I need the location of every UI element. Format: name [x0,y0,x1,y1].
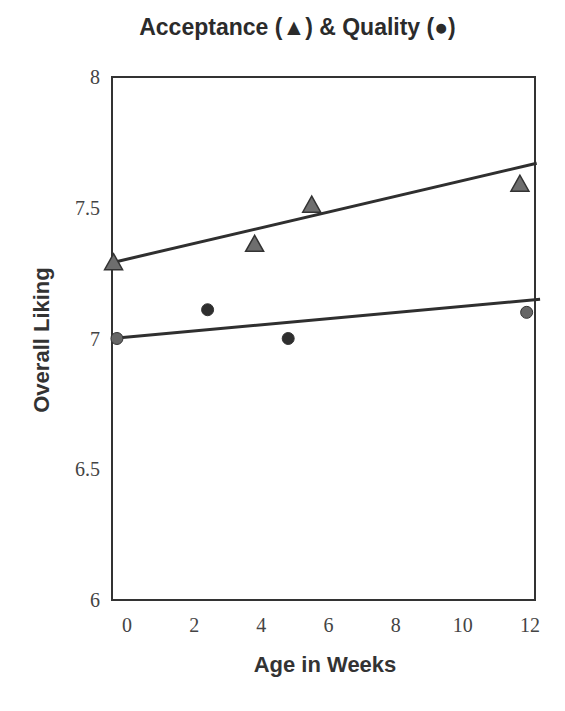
y-tick-label: 6.5 [75,458,100,480]
x-tick-label: 10 [453,614,473,636]
plot-area: 66.577.58024681012 [0,0,565,711]
y-tick-label: 6 [90,589,100,611]
x-tick-label: 2 [189,614,199,636]
y-tick-label: 8 [90,66,100,88]
x-tick-label: 0 [122,614,132,636]
x-tick-label: 4 [256,614,266,636]
triangle-marker-icon [246,235,264,251]
plot-frame [112,77,535,600]
circle-marker-icon [521,306,533,318]
x-tick-label: 12 [520,614,540,636]
quality-trendline [112,299,540,338]
triangle-marker-icon [511,175,529,191]
y-tick-label: 7 [90,328,100,350]
circle-marker-icon [282,333,294,345]
y-tick-label: 7.5 [75,197,100,219]
triangle-marker-icon [303,196,321,212]
circle-marker-icon [202,304,214,316]
x-tick-label: 8 [391,614,401,636]
x-tick-label: 6 [324,614,334,636]
circle-marker-icon [111,333,123,345]
acceptance-trendline [112,163,537,262]
